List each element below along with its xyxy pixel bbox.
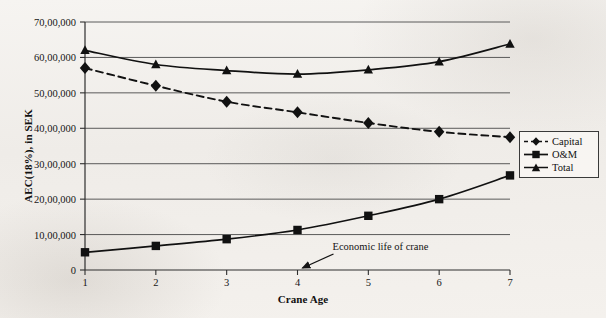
x-axis-title: Crane Age (0, 293, 606, 305)
y-tick-label: 30,00,000 (0, 158, 76, 169)
chart-plot-area (0, 0, 606, 318)
y-tick-label: 10,00,000 (0, 229, 76, 240)
legend-label-capital: Capital (549, 136, 582, 147)
chart-canvas: AEC(18%), in SEK Crane Age 010,00,00020,… (0, 0, 606, 318)
data-series-layer (80, 39, 515, 257)
data-marker-triangle (505, 39, 514, 48)
legend-marker-diamond-icon (523, 135, 549, 148)
data-marker-diamond (434, 126, 444, 138)
series-line (85, 68, 510, 137)
x-tick-label: 7 (507, 277, 512, 288)
legend-marker-triangle-icon (523, 161, 549, 174)
y-tick-label: 0 (0, 265, 76, 276)
data-marker-square (81, 248, 89, 256)
data-marker-diamond (80, 62, 90, 74)
y-tick-label: 50,00,000 (0, 87, 76, 98)
data-marker-square (364, 212, 372, 220)
legend-label-total: Total (549, 162, 573, 173)
data-marker-square (435, 195, 443, 203)
x-tick-label: 1 (82, 277, 87, 288)
y-tick-label: 60,00,000 (0, 52, 76, 63)
data-marker-diamond (221, 96, 231, 108)
series-line (85, 175, 510, 252)
legend-item-total[interactable]: Total (523, 161, 593, 174)
y-tick-label: 40,00,000 (0, 123, 76, 134)
x-tick-label: 3 (224, 277, 229, 288)
data-marker-diamond (363, 117, 373, 129)
gridlines (85, 22, 510, 235)
legend-label-om: O&M (549, 149, 577, 160)
legend-item-om[interactable]: O&M (523, 148, 593, 161)
data-marker-triangle (80, 45, 89, 54)
annotation-arrow (303, 254, 334, 268)
annotation-arrow-line (303, 254, 334, 268)
data-marker-square (506, 171, 514, 179)
legend-marker-square-icon (523, 148, 549, 161)
data-marker-square (222, 235, 230, 243)
y-tick-label: 20,00,000 (0, 194, 76, 205)
chart-legend: Capital O&M Total (519, 131, 599, 178)
x-tick-label: 4 (295, 277, 300, 288)
y-axis-title: AEC(18%), in SEK (22, 86, 34, 226)
series-o-m (81, 171, 514, 256)
data-marker-square (152, 242, 160, 250)
x-tick-label: 5 (366, 277, 371, 288)
x-axis-ticks (85, 270, 510, 275)
x-tick-label: 6 (437, 277, 442, 288)
data-marker-diamond (505, 131, 515, 143)
x-tick-label: 2 (153, 277, 158, 288)
legend-item-capital[interactable]: Capital (523, 135, 593, 148)
y-tick-label: 70,00,000 (0, 17, 76, 28)
data-marker-square (293, 226, 301, 234)
annotation-label: Economic life of crane (333, 241, 429, 252)
y-axis-ticks (80, 22, 85, 270)
data-marker-diamond (292, 106, 302, 118)
data-marker-diamond (151, 80, 161, 92)
series-total (80, 39, 514, 78)
